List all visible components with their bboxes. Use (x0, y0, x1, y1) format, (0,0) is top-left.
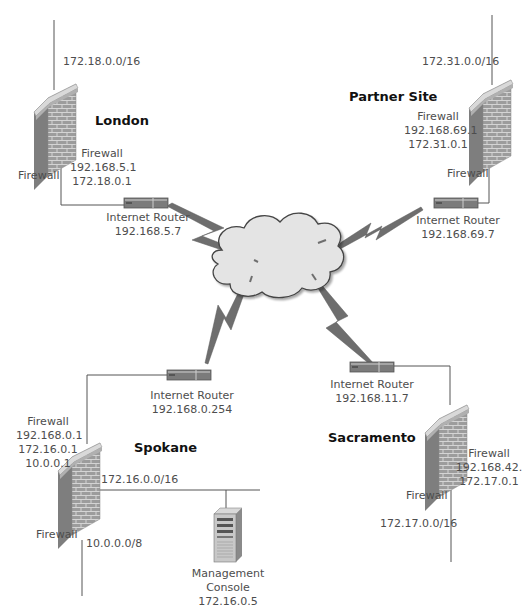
sacramento-firewall-label: Firewall (406, 489, 447, 503)
partner-firewall-label: Firewall (447, 167, 488, 181)
management-console-label: Management Console 172.16.0.5 (190, 567, 266, 609)
internet-cloud (212, 213, 343, 297)
bolt-sacramento (316, 283, 375, 366)
router-icon-sacramento (350, 362, 394, 372)
london-firewall-label: Firewall (18, 169, 59, 183)
partner-firewall-info: Firewall 192.168.69.1 172.31.0.1 (404, 110, 472, 152)
spokane-firewall-label: Firewall (36, 528, 77, 542)
spokane-internal-network-label: 172.16.0.0/16 (101, 473, 178, 487)
spokane-site-title: Spokane (134, 440, 197, 455)
london-firewall-info: Firewall 192.168.5.1 172.18.0.1 (70, 147, 134, 189)
spokane-firewall-info: Firewall 192.168.0.1 172.16.0.1 10.0.0.1 (16, 415, 80, 471)
london-network-label: 172.18.0.0/16 (63, 55, 140, 69)
partner-network-label: 172.31.0.0/16 (422, 55, 499, 69)
london-site-title: London (95, 113, 149, 128)
router-icon-spokane (167, 370, 211, 380)
router-icon-london (124, 198, 168, 208)
spokane-router-label: Internet Router 192.168.0.254 (146, 389, 238, 417)
server-icon-management-console (214, 508, 242, 562)
sacramento-router-label: Internet Router 192.168.11.7 (330, 378, 414, 406)
sacramento-site-title: Sacramento (328, 430, 416, 445)
partner-site-title: Partner Site (349, 89, 437, 104)
sacramento-firewall-info: Firewall 192.168.42. 172.17.0.1 (454, 447, 524, 489)
sacramento-network-label: 172.17.0.0/16 (380, 517, 457, 531)
router-icon-partner (434, 198, 478, 208)
spokane-secondary-network-label: 10.0.0.0/8 (86, 537, 142, 551)
partner-router-label: Internet Router 192.168.69.7 (413, 214, 503, 242)
london-router-label: Internet Router 192.168.5.7 (105, 211, 191, 239)
